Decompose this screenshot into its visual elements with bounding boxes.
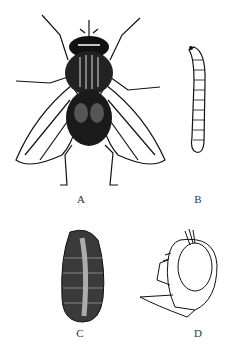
panel-label-d: D (190, 327, 206, 339)
panel-label-b: B (190, 193, 206, 205)
panel-label-c: C (72, 327, 88, 339)
panel-label-a: A (73, 193, 89, 205)
pupa-illustration (58, 228, 108, 324)
larva-illustration (186, 42, 216, 157)
adult-fly-illustration (10, 5, 170, 190)
fly-head-illustration (135, 225, 220, 325)
